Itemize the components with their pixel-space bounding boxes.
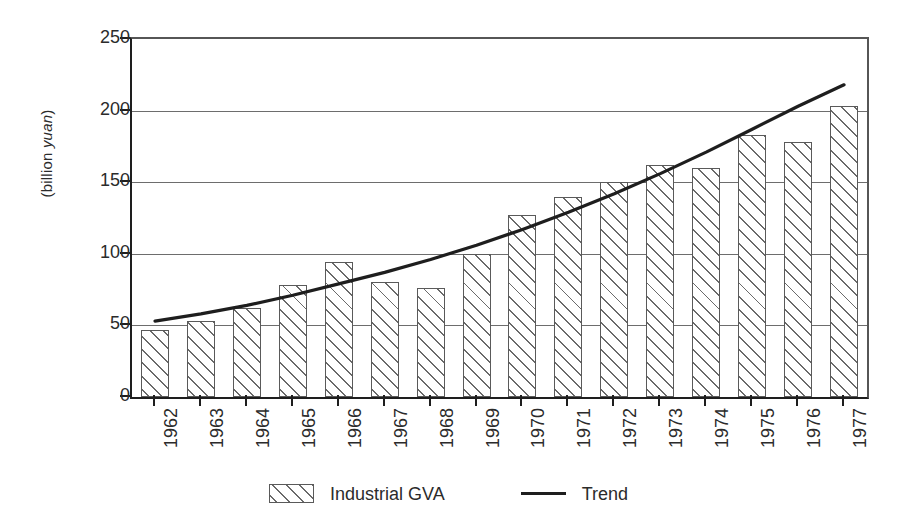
legend-item-industrial-gva: Industrial GVA: [269, 484, 445, 503]
x-tick-mark: [658, 395, 660, 406]
bar: [141, 330, 169, 397]
bar: [830, 106, 858, 397]
x-tick-label: 1968: [438, 408, 456, 470]
bar: [600, 182, 628, 397]
x-tick-mark: [796, 395, 798, 406]
legend-swatch-hatched-icon: [269, 484, 314, 503]
x-tick-mark: [199, 395, 201, 406]
x-tick-mark: [704, 395, 706, 406]
x-tick-mark: [566, 395, 568, 406]
bar: [417, 288, 445, 397]
x-tick-mark: [750, 395, 752, 406]
bar: [554, 197, 582, 397]
bar: [325, 262, 353, 397]
bar: [187, 321, 215, 397]
x-tick-label: 1974: [713, 408, 731, 470]
x-tick-label: 1970: [529, 408, 547, 470]
x-tick-label: 1965: [300, 408, 318, 470]
x-axis-labels: 1962196319641965196619671968196919701971…: [130, 408, 865, 472]
bar: [463, 254, 491, 397]
x-tick-label: 1973: [667, 408, 685, 470]
bar: [508, 215, 536, 397]
y-tick-label: 200: [72, 100, 130, 118]
bar: [738, 135, 766, 397]
bar: [646, 165, 674, 397]
y-tick-label: 250: [72, 28, 130, 46]
bar: [371, 282, 399, 397]
x-axis-ticks: [130, 395, 865, 409]
bar: [233, 308, 261, 397]
x-tick-label: 1969: [484, 408, 502, 470]
chart-figure: (billion yuan) 250200150100500 196219631…: [0, 0, 897, 527]
chart-legend: Industrial GVA Trend: [0, 484, 897, 503]
x-tick-label: 1971: [575, 408, 593, 470]
x-tick-label: 1975: [759, 408, 777, 470]
x-tick-label: 1966: [346, 408, 364, 470]
legend-label-trend: Trend: [582, 485, 628, 503]
x-tick-mark: [520, 395, 522, 406]
legend-label-industrial-gva: Industrial GVA: [330, 485, 445, 503]
plot-area: [130, 37, 869, 399]
x-tick-label: 1976: [805, 408, 823, 470]
y-tick-label: 150: [72, 171, 130, 189]
gridline: [132, 111, 867, 112]
x-tick-mark: [153, 395, 155, 406]
x-tick-label: 1972: [621, 408, 639, 470]
x-tick-label: 1962: [162, 408, 180, 470]
x-tick-mark: [842, 395, 844, 406]
bar: [692, 168, 720, 397]
x-tick-mark: [612, 395, 614, 406]
y-axis: 250200150100500: [0, 37, 130, 395]
x-tick-mark: [337, 395, 339, 406]
y-tick-label: 100: [72, 243, 130, 261]
x-tick-mark: [383, 395, 385, 406]
x-tick-label: 1963: [208, 408, 226, 470]
x-tick-label: 1977: [851, 408, 869, 470]
bar: [784, 142, 812, 397]
y-tick-label: 50: [72, 314, 130, 332]
x-tick-mark: [245, 395, 247, 406]
x-tick-label: 1964: [254, 408, 272, 470]
y-tick-label: 0: [72, 386, 130, 404]
legend-item-trend: Trend: [521, 485, 628, 503]
bar: [279, 285, 307, 397]
x-tick-mark: [291, 395, 293, 406]
legend-swatch-line-icon: [521, 492, 566, 495]
x-tick-mark: [475, 395, 477, 406]
x-tick-label: 1967: [392, 408, 410, 470]
x-tick-mark: [429, 395, 431, 406]
